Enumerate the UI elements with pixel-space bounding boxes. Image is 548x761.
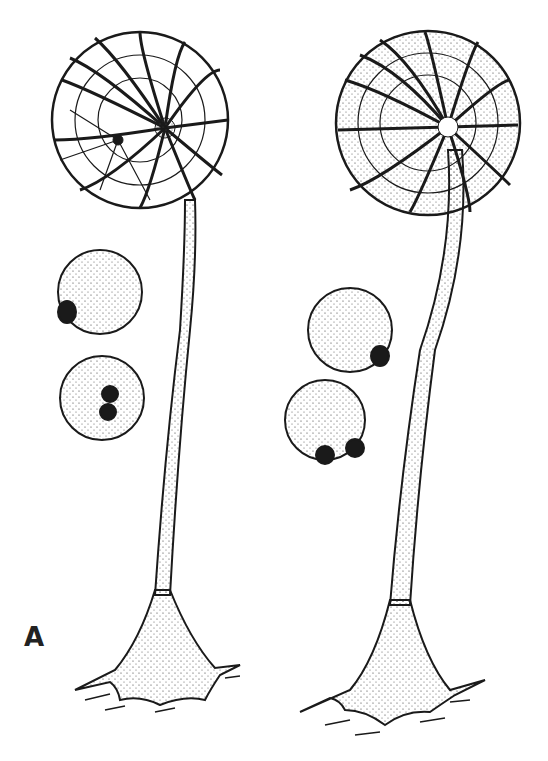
panel-label: A bbox=[24, 622, 44, 652]
right-spores bbox=[285, 288, 392, 464]
illustration bbox=[0, 0, 548, 761]
left-spores bbox=[58, 250, 144, 440]
